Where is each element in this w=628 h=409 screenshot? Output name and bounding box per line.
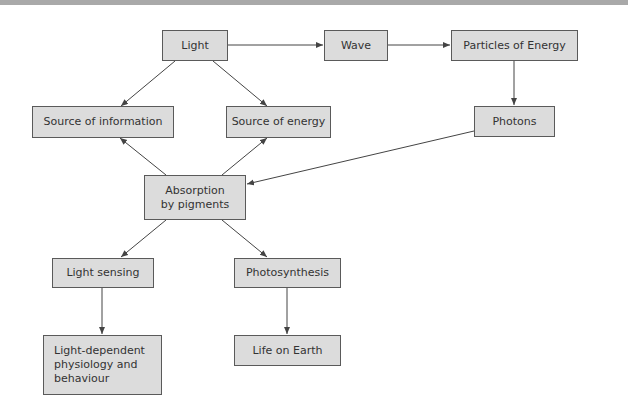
edge-absorption-energy [222,138,267,175]
edge-photons-absorption [247,131,474,184]
edge-light-info [121,61,175,106]
node-source-of-information: Source of information [32,106,174,138]
node-absorption-by-pigments: Absorption by pigments [144,175,246,220]
node-photosynthesis: Photosynthesis [234,258,341,288]
node-life-on-earth: Life on Earth [234,335,341,366]
edge-absorption-info [120,138,166,175]
node-source-of-energy: Source of energy [226,106,331,138]
node-photons: Photons [474,106,555,137]
edge-absorption-sensing [121,220,166,257]
node-light: Light [162,30,228,61]
node-wave: Wave [324,30,388,61]
edge-light-energy [213,61,267,106]
edge-absorption-photosynthesis [222,220,267,257]
node-light-dependent-physiology: Light-dependent physiology and behaviour [43,335,162,395]
node-particles-of-energy: Particles of Energy [451,30,578,61]
node-light-sensing: Light sensing [52,258,154,288]
